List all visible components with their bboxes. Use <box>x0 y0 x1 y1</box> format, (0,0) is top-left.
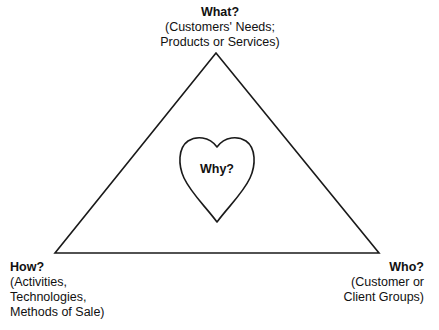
how-line-1: (Activities, <box>10 275 150 290</box>
how-line-3: Methods of Sale) <box>10 305 150 320</box>
triangle-shape <box>55 53 379 253</box>
how-title: How? <box>10 260 150 275</box>
vertex-label-who: Who? (Customer or Client Groups) <box>284 260 424 305</box>
what-title: What? <box>120 5 320 20</box>
who-line-2: Client Groups) <box>284 290 424 305</box>
who-line-1: (Customer or <box>284 275 424 290</box>
diagram-canvas: What? (Customers' Needs; Products or Ser… <box>0 0 439 330</box>
what-line-1: (Customers' Needs; <box>120 20 320 35</box>
who-title: Who? <box>284 260 424 275</box>
vertex-label-how: How? (Activities, Technologies, Methods … <box>10 260 150 320</box>
what-line-2: Products or Services) <box>120 35 320 50</box>
how-line-2: Technologies, <box>10 290 150 305</box>
heart-icon <box>180 138 254 222</box>
heart-label-why: Why? <box>187 162 247 176</box>
vertex-label-what: What? (Customers' Needs; Products or Ser… <box>120 5 320 50</box>
